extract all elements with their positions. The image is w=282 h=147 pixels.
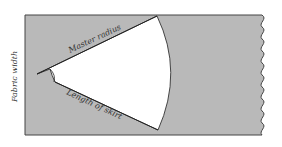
- fabric-width-label: Fabric width: [10, 51, 19, 103]
- skirt-layout-diagram: Fabric width Master radius Length of ski…: [0, 0, 282, 147]
